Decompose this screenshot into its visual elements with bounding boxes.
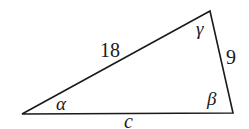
angle-label-alpha: α: [56, 93, 67, 114]
angle-label-gamma: γ: [196, 18, 204, 39]
side-label-bc: 9: [226, 46, 236, 68]
angle-label-beta: β: [206, 88, 217, 109]
triangle-svg: 18 9 c α β γ: [0, 0, 249, 129]
triangle-diagram: 18 9 c α β γ: [0, 0, 249, 129]
side-label-ac: 18: [100, 39, 120, 61]
side-label-ab: c: [124, 110, 133, 129]
